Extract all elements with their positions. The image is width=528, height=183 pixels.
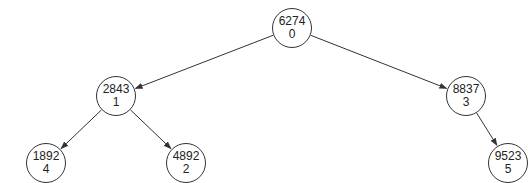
- node-index: 5: [505, 163, 512, 176]
- node-index: 3: [463, 96, 470, 109]
- tree-node: 62740: [272, 8, 312, 48]
- tree-node: 48922: [166, 143, 206, 183]
- edge-arrow: [136, 35, 274, 88]
- tree-node: 95235: [488, 143, 528, 183]
- node-index: 4: [43, 163, 50, 176]
- tree-node: 28431: [96, 76, 136, 116]
- node-index: 0: [289, 28, 296, 41]
- edge-arrow: [311, 35, 447, 88]
- tree-node: 18924: [26, 143, 66, 183]
- node-index: 2: [183, 163, 190, 176]
- edge-arrow: [477, 113, 497, 145]
- edge-arrow: [130, 110, 170, 149]
- tree-node: 88373: [446, 76, 486, 116]
- edge-arrow: [61, 110, 101, 149]
- node-index: 1: [113, 96, 120, 109]
